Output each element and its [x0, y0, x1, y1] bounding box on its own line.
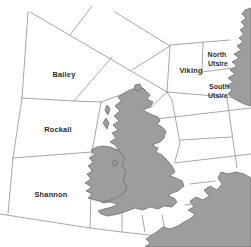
sea-area-label-north-utsire-line2: Utsire	[208, 60, 228, 67]
sea-area-label-south-utsire-line1: South	[209, 83, 229, 90]
sea-area-label-south-utsire-line2: Utsire	[208, 92, 228, 99]
shipping-areas-svg: Bailey Rockall Shannon Viking North Utsi…	[0, 0, 251, 247]
sea-area-label-bailey: Bailey	[53, 70, 77, 79]
sea-area-label-north-utsire-line1: North	[208, 51, 227, 58]
sea-area-label-shannon: Shannon	[34, 190, 67, 199]
sea-area-label-rockall: Rockall	[44, 125, 72, 134]
shipping-forecast-map: Bailey Rockall Shannon Viking North Utsi…	[0, 0, 251, 247]
sea-area-label-viking: Viking	[179, 66, 203, 75]
